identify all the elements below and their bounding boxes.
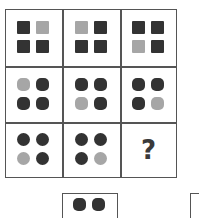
rounded-square-light-icon	[17, 78, 30, 91]
circle-dark-icon	[75, 152, 88, 165]
rounded-square-dark-icon	[92, 198, 105, 211]
missing-cell-question-mark: ?	[122, 136, 176, 164]
rounded-square-dark-icon	[132, 97, 145, 110]
rounded-square-light-icon	[75, 97, 88, 110]
square-dark-icon	[75, 40, 88, 53]
circle-dark-icon	[36, 133, 49, 146]
rounded-square-light-icon	[151, 97, 164, 110]
grid-cell	[64, 68, 121, 123]
grid-cell	[64, 124, 121, 177]
grid-cell	[6, 124, 62, 177]
circle-light-icon	[94, 152, 107, 165]
square-dark-icon	[151, 21, 164, 34]
rounded-square-dark-icon	[36, 97, 49, 110]
grid-cell	[122, 10, 176, 66]
square-dark-icon	[17, 21, 30, 34]
square-dark-icon	[36, 40, 49, 53]
circle-dark-icon	[94, 133, 107, 146]
circle-dark-icon	[75, 133, 88, 146]
grid-cell	[6, 10, 62, 66]
rounded-square-dark-icon	[94, 97, 107, 110]
rounded-square-dark-icon	[36, 78, 49, 91]
circle-dark-icon	[36, 152, 49, 165]
puzzle-grid: ?	[5, 9, 177, 178]
grid-cell	[6, 68, 62, 123]
rounded-square-dark-icon	[151, 78, 164, 91]
grid-cell	[64, 10, 121, 66]
square-dark-icon	[94, 40, 107, 53]
square-dark-icon	[151, 40, 164, 53]
square-dark-icon	[132, 21, 145, 34]
circle-light-icon	[17, 152, 30, 165]
answer-option-1[interactable]	[62, 193, 118, 218]
grid-cell: ?	[122, 124, 176, 177]
rounded-square-dark-icon	[75, 78, 88, 91]
grid-cell	[122, 68, 176, 123]
square-dark-icon	[17, 40, 30, 53]
answer-option-2[interactable]	[190, 193, 199, 218]
square-light-icon	[36, 21, 49, 34]
rounded-square-dark-icon	[17, 97, 30, 110]
rounded-square-dark-icon	[132, 78, 145, 91]
square-dark-icon	[94, 21, 107, 34]
square-light-icon	[75, 21, 88, 34]
square-light-icon	[132, 40, 145, 53]
circle-dark-icon	[17, 133, 30, 146]
rounded-square-dark-icon	[73, 198, 86, 211]
rounded-square-dark-icon	[94, 78, 107, 91]
